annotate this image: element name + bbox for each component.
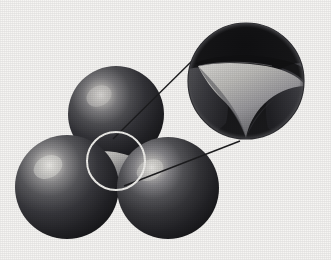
sphere-right-body <box>117 137 219 239</box>
illustration-canvas: Close-packed spheres with magnified inte… <box>0 0 331 260</box>
sphere-right <box>117 137 219 239</box>
close-packed-spheres-figure: Close-packed spheres with magnified inte… <box>0 0 331 260</box>
